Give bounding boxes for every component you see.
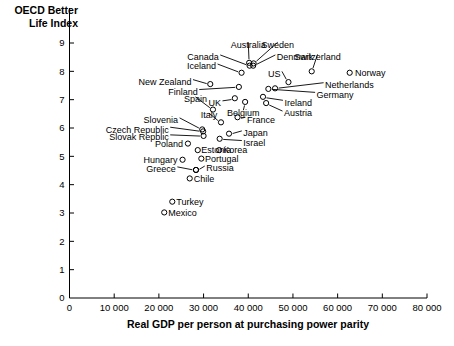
data-point-marker[interactable] xyxy=(199,156,204,161)
leader-line xyxy=(199,87,235,89)
data-point-marker[interactable] xyxy=(193,167,198,172)
data-point-marker[interactable] xyxy=(236,84,241,89)
y-tick-label: 6 xyxy=(59,122,64,133)
x-tick-label: 80 000 xyxy=(412,302,441,313)
data-point-label: Russia xyxy=(206,163,234,173)
tick-labels: 0123456789010 00020 00030 00040 00050 00… xyxy=(59,37,441,312)
y-tick-label: 2 xyxy=(59,236,64,247)
data-point-label: Germany xyxy=(317,90,355,100)
data-point-marker[interactable] xyxy=(217,136,222,141)
data-point-label: Netherlands xyxy=(325,80,374,90)
data-point-label: Sweden xyxy=(261,40,294,50)
data-point-label: UK xyxy=(208,98,221,108)
oecd-better-life-index-scatter-chart: OECD Better Life Index AustraliaSwedenCa… xyxy=(0,0,454,346)
x-tick-label: 60 000 xyxy=(323,302,352,313)
leader-line xyxy=(177,167,192,170)
leader-line xyxy=(233,131,242,134)
data-point-marker[interactable] xyxy=(162,210,167,215)
leader-line xyxy=(279,83,324,88)
y-tick-label: 9 xyxy=(59,37,64,48)
x-tick-label: 30 000 xyxy=(189,302,218,313)
data-point-marker[interactable] xyxy=(272,86,277,91)
leader-line xyxy=(180,118,199,128)
data-point-label: Iceland xyxy=(187,61,216,71)
data-point-label: Portugal xyxy=(205,154,239,164)
y-tick-label: 3 xyxy=(59,207,64,218)
data-point-label: Japan xyxy=(243,128,268,138)
data-point-label: New Zealand xyxy=(138,77,191,87)
leader-line xyxy=(222,100,231,101)
x-axis-title: Real GDP per person at purchasing power … xyxy=(127,318,369,330)
leader-line xyxy=(269,105,282,111)
data-point-label: Turkey xyxy=(176,197,204,207)
data-point-label: Italy xyxy=(201,110,218,120)
data-point-label: Austria xyxy=(284,108,312,118)
leader-line xyxy=(220,55,246,65)
data-point-label: Poland xyxy=(155,139,183,149)
leader-line xyxy=(170,135,200,136)
data-point-marker[interactable] xyxy=(239,70,244,75)
data-point-marker[interactable] xyxy=(170,199,175,204)
leader-line xyxy=(223,139,242,140)
data-point-label: Ireland xyxy=(284,98,312,108)
data-point-marker[interactable] xyxy=(232,96,237,101)
data-point-label: Mexico xyxy=(168,208,197,218)
leader-line xyxy=(199,166,204,169)
data-point-marker[interactable] xyxy=(243,99,248,104)
y-tick-label: 4 xyxy=(59,179,64,190)
data-point-marker[interactable] xyxy=(185,141,190,146)
data-point-marker[interactable] xyxy=(266,86,271,91)
x-tick-label: 10 000 xyxy=(100,302,129,313)
data-point-marker[interactable] xyxy=(286,80,291,85)
data-point-label: France xyxy=(247,115,275,125)
data-point-marker[interactable] xyxy=(180,157,185,162)
data-point-marker[interactable] xyxy=(208,81,213,86)
y-tick-label: 5 xyxy=(59,151,64,162)
x-tick-label: 20 000 xyxy=(144,302,173,313)
data-point-marker[interactable] xyxy=(218,120,223,125)
data-point-marker[interactable] xyxy=(260,94,265,99)
x-tick-label: 40 000 xyxy=(234,302,263,313)
y-tick-label: 8 xyxy=(59,66,64,77)
y-tick-label: 0 xyxy=(59,292,64,303)
data-point-label: Chile xyxy=(194,174,215,184)
x-tick-label: 50 000 xyxy=(278,302,307,313)
data-point-marker[interactable] xyxy=(195,148,200,153)
data-point-marker[interactable] xyxy=(226,131,231,136)
x-tick-label: 0 xyxy=(67,302,72,313)
leader-line xyxy=(193,80,207,84)
leader-line xyxy=(170,127,199,131)
leader-line xyxy=(272,89,315,92)
leader-line xyxy=(218,64,238,72)
data-point-label: Greece xyxy=(146,164,176,174)
data-point-marker[interactable] xyxy=(264,100,269,105)
data-point-label: Switzerland xyxy=(294,52,341,62)
y-tick-label: 1 xyxy=(59,264,64,275)
leader-line xyxy=(266,98,282,100)
data-point-label: US xyxy=(268,69,281,79)
leader-line xyxy=(282,71,286,79)
data-point-marker[interactable] xyxy=(347,70,352,75)
leader-line xyxy=(257,55,276,64)
data-point-labels: AustraliaSwedenCanadaDenmarkSwitzerlandI… xyxy=(106,40,386,218)
data-point-marker[interactable] xyxy=(187,176,192,181)
data-point-marker[interactable] xyxy=(309,69,314,74)
data-point-label: Spain xyxy=(184,94,207,104)
plot-canvas: AustraliaSwedenCanadaDenmarkSwitzerlandI… xyxy=(0,0,454,346)
x-tick-label: 70 000 xyxy=(368,302,397,313)
data-point-label: Norway xyxy=(355,68,386,78)
y-tick-label: 7 xyxy=(59,94,64,105)
